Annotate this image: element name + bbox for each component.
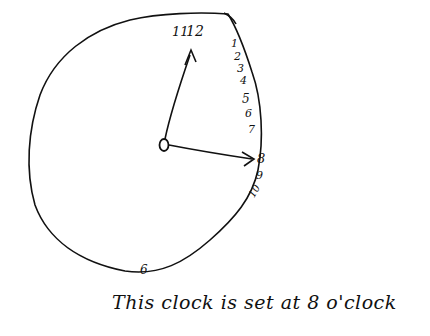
numeral-9: 9 xyxy=(256,169,263,182)
numeral-1: 1 xyxy=(231,37,238,50)
minute-hand-arrowhead xyxy=(185,50,196,65)
caption: This clock is set at 8 o'clock xyxy=(112,291,397,313)
hour-hand xyxy=(169,145,252,159)
numeral-5: 5 xyxy=(242,92,250,106)
clock-drawing: 11 12 1 2 3 4 5 6 7 8 9 10 6 xyxy=(0,0,430,336)
numeral-12: 12 xyxy=(186,23,204,39)
numeral-7: 7 xyxy=(248,123,255,136)
numeral-6-side: 6 xyxy=(245,107,252,120)
center-pivot xyxy=(160,139,169,151)
clock-face-outline xyxy=(29,13,261,272)
numeral-6-bottom: 6 xyxy=(140,263,148,277)
minute-hand xyxy=(165,55,190,139)
numeral-8: 8 xyxy=(257,151,265,166)
numeral-4: 4 xyxy=(239,74,247,87)
